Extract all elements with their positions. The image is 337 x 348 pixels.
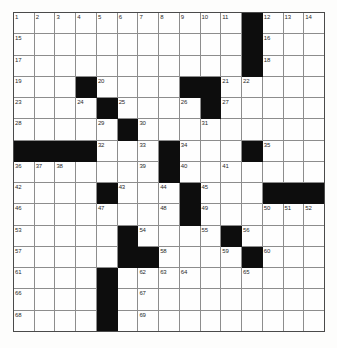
crossword-cell[interactable]	[201, 34, 222, 55]
crossword-cell[interactable]	[221, 311, 242, 332]
crossword-cell[interactable]: 53	[14, 226, 35, 247]
crossword-cell[interactable]	[55, 204, 76, 225]
crossword-cell[interactable]	[284, 247, 305, 268]
crossword-cell[interactable]: 60	[263, 247, 284, 268]
crossword-cell[interactable]	[221, 289, 242, 310]
crossword-cell[interactable]	[55, 77, 76, 98]
crossword-cell[interactable]	[76, 119, 97, 140]
crossword-cell[interactable]	[138, 204, 159, 225]
crossword-cell[interactable]	[55, 311, 76, 332]
crossword-cell[interactable]	[159, 119, 180, 140]
crossword-cell[interactable]: 52	[304, 204, 325, 225]
crossword-cell[interactable]	[138, 34, 159, 55]
crossword-cell[interactable]	[263, 77, 284, 98]
crossword-cell[interactable]: 25	[118, 98, 139, 119]
crossword-cell[interactable]	[304, 289, 325, 310]
crossword-cell[interactable]: 59	[221, 247, 242, 268]
crossword-cell[interactable]: 66	[14, 289, 35, 310]
crossword-cell[interactable]	[284, 77, 305, 98]
crossword-cell[interactable]: 69	[138, 311, 159, 332]
crossword-cell[interactable]	[55, 247, 76, 268]
crossword-cell[interactable]	[97, 34, 118, 55]
crossword-cell[interactable]: 2	[35, 13, 56, 34]
crossword-cell[interactable]	[159, 98, 180, 119]
crossword-cell[interactable]: 19	[14, 77, 35, 98]
crossword-cell[interactable]: 49	[201, 204, 222, 225]
crossword-cell[interactable]	[263, 268, 284, 289]
crossword-cell[interactable]: 35	[263, 141, 284, 162]
crossword-cell[interactable]: 20	[97, 77, 118, 98]
crossword-cell[interactable]: 34	[180, 141, 201, 162]
crossword-cell[interactable]: 14	[304, 13, 325, 34]
crossword-cell[interactable]: 23	[14, 98, 35, 119]
crossword-cell[interactable]: 62	[138, 268, 159, 289]
crossword-cell[interactable]	[35, 204, 56, 225]
crossword-cell[interactable]	[118, 77, 139, 98]
crossword-cell[interactable]	[35, 98, 56, 119]
crossword-cell[interactable]	[180, 311, 201, 332]
crossword-cell[interactable]	[284, 98, 305, 119]
crossword-cell[interactable]	[263, 289, 284, 310]
crossword-cell[interactable]	[118, 162, 139, 183]
crossword-cell[interactable]	[284, 311, 305, 332]
crossword-cell[interactable]	[242, 162, 263, 183]
crossword-cell[interactable]: 61	[14, 268, 35, 289]
crossword-cell[interactable]	[138, 98, 159, 119]
crossword-cell[interactable]	[97, 247, 118, 268]
crossword-cell[interactable]: 38	[55, 162, 76, 183]
crossword-cell[interactable]	[35, 289, 56, 310]
crossword-cell[interactable]	[159, 289, 180, 310]
crossword-cell[interactable]: 8	[159, 13, 180, 34]
crossword-cell[interactable]	[242, 204, 263, 225]
crossword-cell[interactable]	[180, 56, 201, 77]
crossword-cell[interactable]	[55, 268, 76, 289]
crossword-cell[interactable]	[118, 204, 139, 225]
crossword-cell[interactable]	[201, 268, 222, 289]
crossword-cell[interactable]: 45	[201, 183, 222, 204]
crossword-cell[interactable]: 43	[118, 183, 139, 204]
crossword-cell[interactable]: 5	[97, 13, 118, 34]
crossword-cell[interactable]	[304, 162, 325, 183]
crossword-cell[interactable]	[97, 162, 118, 183]
crossword-cell[interactable]	[138, 56, 159, 77]
crossword-cell[interactable]	[284, 268, 305, 289]
crossword-cell[interactable]	[242, 119, 263, 140]
crossword-cell[interactable]	[242, 98, 263, 119]
crossword-cell[interactable]	[201, 162, 222, 183]
crossword-cell[interactable]	[284, 119, 305, 140]
crossword-cell[interactable]: 7	[138, 13, 159, 34]
crossword-cell[interactable]: 29	[97, 119, 118, 140]
crossword-cell[interactable]: 17	[14, 56, 35, 77]
crossword-cell[interactable]	[221, 183, 242, 204]
crossword-cell[interactable]: 31	[201, 119, 222, 140]
crossword-cell[interactable]	[180, 289, 201, 310]
crossword-cell[interactable]	[76, 247, 97, 268]
crossword-cell[interactable]	[284, 34, 305, 55]
crossword-cell[interactable]	[263, 119, 284, 140]
crossword-cell[interactable]: 4	[76, 13, 97, 34]
crossword-cell[interactable]	[180, 226, 201, 247]
crossword-cell[interactable]: 3	[55, 13, 76, 34]
crossword-cell[interactable]: 28	[14, 119, 35, 140]
crossword-cell[interactable]	[201, 56, 222, 77]
crossword-cell[interactable]	[35, 56, 56, 77]
crossword-cell[interactable]: 32	[97, 141, 118, 162]
crossword-cell[interactable]	[159, 77, 180, 98]
crossword-cell[interactable]: 37	[35, 162, 56, 183]
crossword-cell[interactable]: 26	[180, 98, 201, 119]
crossword-cell[interactable]: 65	[242, 268, 263, 289]
crossword-cell[interactable]	[221, 268, 242, 289]
crossword-cell[interactable]: 57	[14, 247, 35, 268]
crossword-cell[interactable]: 40	[180, 162, 201, 183]
crossword-cell[interactable]	[221, 56, 242, 77]
crossword-cell[interactable]	[55, 183, 76, 204]
crossword-cell[interactable]	[242, 289, 263, 310]
crossword-cell[interactable]	[35, 183, 56, 204]
crossword-cell[interactable]	[159, 34, 180, 55]
crossword-cell[interactable]: 68	[14, 311, 35, 332]
crossword-cell[interactable]	[35, 119, 56, 140]
crossword-cell[interactable]: 1	[14, 13, 35, 34]
crossword-cell[interactable]	[76, 311, 97, 332]
crossword-cell[interactable]	[304, 247, 325, 268]
crossword-cell[interactable]	[201, 311, 222, 332]
